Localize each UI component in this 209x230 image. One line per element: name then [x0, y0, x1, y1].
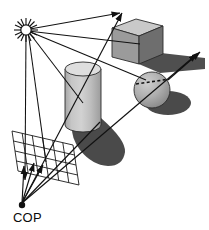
- ray-tracing-diagram: COP: [0, 0, 209, 230]
- light-source-core: [21, 25, 31, 35]
- diagram-canvas: COP: [0, 0, 209, 230]
- cylinder-object: [65, 62, 101, 132]
- cylinder-body: [65, 69, 101, 132]
- cop-label: COP: [13, 210, 42, 225]
- cop-point: [19, 202, 25, 208]
